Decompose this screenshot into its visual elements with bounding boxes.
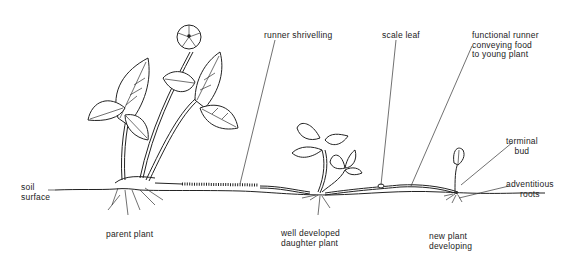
leader-runner-shrivelling — [240, 40, 275, 184]
daughter-plant — [292, 123, 362, 215]
leader-scale-leaf — [381, 40, 396, 185]
leader-adventitious-roots — [459, 186, 509, 198]
label-line: developing — [429, 242, 472, 252]
label-adventitious-roots: adventitious roots — [506, 180, 554, 199]
label-soil-surface: soil surface — [21, 183, 50, 202]
label-new-plant: new plant developing — [429, 232, 472, 251]
label-scale-leaf: scale leaf — [382, 31, 420, 41]
new-plant — [444, 148, 464, 203]
label-line: daughter plant — [281, 239, 340, 249]
label-line: to young plant — [472, 50, 539, 60]
leader-functional-runner — [411, 46, 472, 186]
label-line: roots — [506, 190, 554, 200]
soil-surface-line — [55, 189, 545, 195]
shrivelling-runner — [155, 183, 182, 184]
parent-plant — [88, 25, 238, 215]
label-terminal-bud: terminal bud — [506, 137, 538, 156]
label-line: bud — [506, 147, 538, 157]
flower-icon — [177, 25, 201, 49]
label-daughter-plant: well developed daughter plant — [281, 229, 340, 248]
label-functional-runner: functional runner conveying food to youn… — [472, 31, 539, 60]
label-runner-shrivelling: runner shrivelling — [264, 31, 332, 41]
label-line: surface — [21, 193, 50, 203]
label-parent-plant: parent plant — [106, 230, 153, 240]
